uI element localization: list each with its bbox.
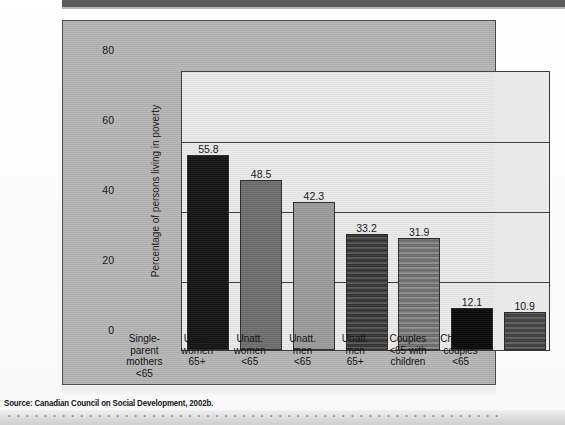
y-tick-label: 60	[94, 115, 114, 126]
x-category-label-line: women	[171, 345, 224, 357]
x-category-label-line: Childless	[434, 333, 487, 345]
x-category-label: Unatt.women<65	[223, 333, 276, 368]
x-category-label-line: children	[382, 356, 435, 368]
x-category-label-line: men	[329, 345, 382, 357]
bleed-through-text: • • • • • • • • • • • • • • • • • • • • …	[8, 412, 500, 420]
bars-layer: 55.848.542.333.231.912.110.9	[182, 72, 549, 350]
x-category-label-line: 65+	[171, 356, 224, 368]
x-category-label-line: parent	[118, 345, 171, 357]
bar-value-label: 12.1	[442, 297, 502, 308]
x-category-label-line: Unatt.	[329, 333, 382, 345]
x-category-label-line: Couples	[382, 333, 435, 345]
x-category-label: Childlesscouples<65	[434, 333, 487, 368]
x-category-label-line: Unatt.	[171, 333, 224, 345]
bar	[293, 202, 335, 350]
x-category-label-line: Single-	[118, 333, 171, 345]
x-axis-category-labels: Single-parentmothers<65Unatt.women65+Una…	[118, 333, 487, 385]
x-category-label-line: Unatt.	[223, 333, 276, 345]
y-tick-label: 0	[94, 325, 114, 336]
x-category-label-line: men	[276, 345, 329, 357]
x-category-label-line: couples	[434, 345, 487, 357]
x-category-label-line: <65	[276, 356, 329, 368]
x-category-label: Unatt.women65+	[171, 333, 224, 368]
bar-value-label: 55.8	[178, 144, 238, 155]
x-category-label: Unatt.men65+	[329, 333, 382, 368]
bar-texture	[347, 235, 387, 349]
y-axis-title: Percentage of persons living in poverty	[149, 41, 163, 341]
bar	[504, 312, 546, 350]
page-top-rule	[62, 0, 565, 7]
bar	[240, 180, 282, 350]
bar-value-label: 42.3	[284, 191, 344, 202]
x-category-label-line: mothers	[118, 356, 171, 368]
x-category-label: Single-parentmothers<65	[118, 333, 171, 379]
page-top-rule-shadow	[62, 7, 565, 9]
bar-value-label: 31.9	[389, 227, 449, 238]
x-category-label-line: <65	[434, 356, 487, 368]
bar-value-label: 48.5	[231, 169, 291, 180]
figure-panel: Percentage of persons living in poverty …	[62, 20, 496, 385]
x-category-label-line: women	[223, 345, 276, 357]
scanned-page: Percentage of persons living in poverty …	[0, 0, 565, 425]
x-category-label-line: <65	[223, 356, 276, 368]
x-category-label-line: Unatt.	[276, 333, 329, 345]
bar	[187, 155, 229, 350]
x-category-label-line: <65 with	[382, 345, 435, 357]
bar-texture	[505, 313, 545, 349]
x-category-label-line: <65	[118, 368, 171, 380]
plot-area: 55.848.542.333.231.912.110.9	[181, 71, 550, 351]
y-tick-label: 80	[94, 45, 114, 56]
panel-shadow	[62, 386, 496, 396]
bar-value-label: 10.9	[495, 301, 555, 312]
y-tick-label: 20	[94, 255, 114, 266]
x-category-label: Unatt.men<65	[276, 333, 329, 368]
x-category-label-line: 65+	[329, 356, 382, 368]
source-caption: Source: Canadian Council on Social Devel…	[4, 398, 213, 408]
page-bleed-through: • • • • • • • • • • • • • • • • • • • • …	[0, 410, 565, 425]
y-axis-tick-labels: 020406080	[94, 20, 114, 385]
bar-value-label: 33.2	[337, 223, 397, 234]
y-tick-label: 40	[94, 185, 114, 196]
x-category-label: Couples<65 withchildren	[382, 333, 435, 368]
